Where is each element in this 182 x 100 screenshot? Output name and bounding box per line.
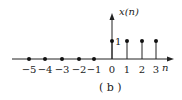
y-axis-arrow-icon	[110, 13, 115, 20]
stem-dot	[60, 57, 64, 61]
x-tick-label: −4	[38, 64, 53, 75]
stem-dot	[154, 39, 158, 43]
tick-labels-group: −5−4−3−2−10123	[22, 64, 160, 75]
x-axis-label: n	[162, 62, 168, 73]
stem-dot	[27, 57, 31, 61]
x-tick-label: −5	[22, 64, 37, 75]
y-axis-label: x(n)	[119, 6, 139, 17]
x-tick-label: 2	[139, 64, 145, 75]
stem-dot	[140, 39, 144, 43]
stem-dot	[125, 39, 129, 43]
stem-plot-figure: −5−4−3−2−10123 x(n) n 1 ( b )	[0, 0, 182, 100]
plot-canvas: −5−4−3−2−10123 x(n) n 1 ( b )	[0, 0, 182, 100]
x-tick-label: −2	[72, 64, 87, 75]
x-tick-label: −3	[55, 64, 70, 75]
x-tick-label: 3	[153, 64, 159, 75]
stems-group	[27, 39, 158, 61]
x-tick-label: 1	[124, 64, 130, 75]
x-tick-label: −1	[87, 64, 102, 75]
stem-dot	[92, 57, 96, 61]
x-axis-arrow-icon	[167, 57, 174, 62]
x-tick-label: 0	[109, 64, 115, 75]
stem-dot	[110, 39, 114, 43]
y-tick-label: 1	[115, 36, 121, 47]
stem-dot	[43, 57, 47, 61]
stem-dot	[77, 57, 81, 61]
figure-caption: ( b )	[99, 81, 122, 94]
